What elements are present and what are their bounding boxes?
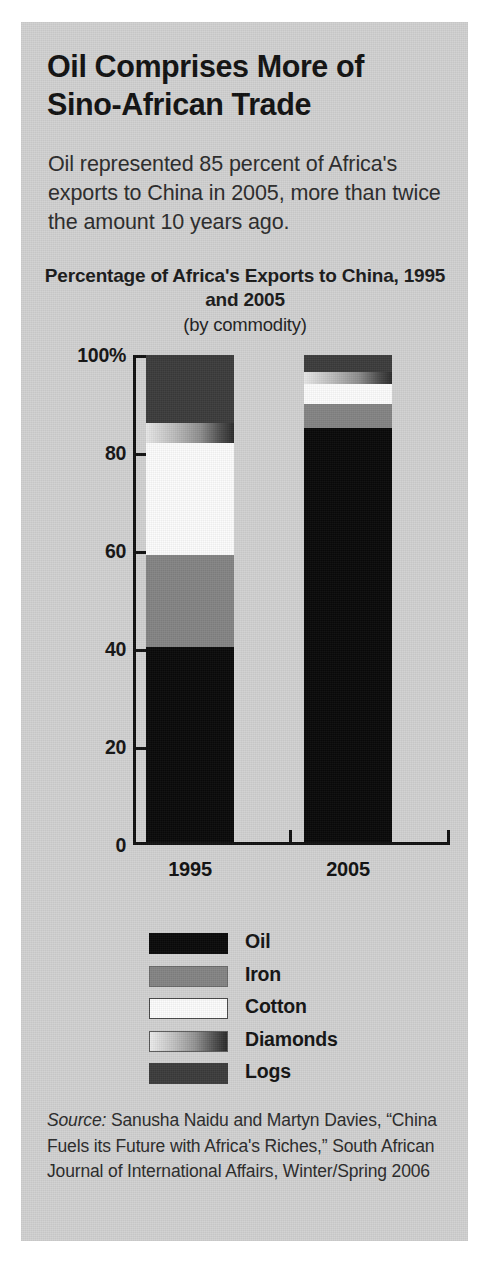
y-tick-20 <box>133 747 146 750</box>
source-text: Sanusha Naidu and Martyn Davies, “China … <box>47 1110 437 1181</box>
infographic-panel: Oil Comprises More of Sino-African Trade… <box>21 22 468 1241</box>
legend-label-cotton: Cotton <box>245 995 307 1018</box>
source-label: Source: <box>47 1110 106 1130</box>
legend-label-diamonds: Diamonds <box>245 1028 338 1051</box>
x-tick-label-2005: 2005 <box>288 858 408 881</box>
bar-2005-segment-oil <box>304 428 392 842</box>
bar-1995-segment-diamonds <box>146 423 234 443</box>
y-tick-40 <box>133 649 146 652</box>
legend-swatch-diamonds-icon <box>149 1031 228 1052</box>
bar-2005-segment-logs <box>304 355 392 372</box>
legend-swatch-cotton-icon <box>149 998 228 1019</box>
legend-swatch-iron-icon <box>149 966 228 987</box>
page-root: Oil Comprises More of Sino-African Trade… <box>0 0 489 1264</box>
bar-1995 <box>146 355 234 842</box>
legend-item-iron: Iron <box>149 963 409 996</box>
x-axis-right-cap <box>447 830 450 845</box>
x-tick-label-1995: 1995 <box>130 858 250 881</box>
y-tick-label-40: 40 <box>41 638 126 661</box>
legend-item-diamonds: Diamonds <box>149 1028 409 1061</box>
y-axis-line <box>133 355 136 845</box>
legend-item-oil: Oil <box>149 930 409 963</box>
legend-swatch-oil-icon <box>149 933 228 954</box>
bar-2005 <box>304 355 392 842</box>
bar-1995-segment-logs <box>146 355 234 423</box>
legend-label-logs: Logs <box>245 1060 291 1083</box>
y-tick-80 <box>133 453 146 456</box>
legend-label-iron: Iron <box>245 963 281 986</box>
y-tick-100 <box>133 355 146 358</box>
legend-item-cotton: Cotton <box>149 995 409 1028</box>
legend-item-logs: Logs <box>149 1060 409 1093</box>
legend-label-oil: Oil <box>245 930 270 953</box>
y-tick-label-60: 60 <box>41 540 126 563</box>
y-tick-60 <box>133 551 146 554</box>
bar-2005-segment-cotton <box>304 384 392 404</box>
bar-1995-segment-oil <box>146 647 234 842</box>
x-axis-center-tick <box>289 830 292 845</box>
source-note: Source: Sanusha Naidu and Martyn Davies,… <box>47 1108 451 1185</box>
bar-2005-segment-iron <box>304 404 392 428</box>
bar-1995-segment-iron <box>146 555 234 648</box>
legend-swatch-logs-icon <box>149 1063 228 1084</box>
y-tick-label-100: 100% <box>41 344 126 367</box>
chart-legend: Oil Iron Cotton Diamonds Logs <box>149 930 409 1093</box>
y-tick-label-80: 80 <box>41 442 126 465</box>
bar-1995-segment-cotton <box>146 443 234 555</box>
bar-2005-segment-diamonds <box>304 372 392 384</box>
y-tick-label-0: 0 <box>41 834 126 857</box>
y-tick-label-20: 20 <box>41 736 126 759</box>
